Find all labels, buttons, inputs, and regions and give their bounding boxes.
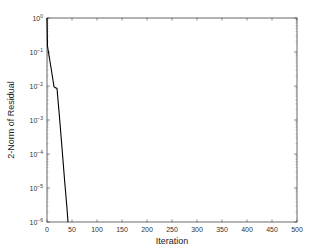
x-tick-label: 300: [191, 226, 203, 233]
y-tick-label: 100: [32, 13, 43, 22]
x-tick-label: 150: [116, 226, 128, 233]
x-tick-label: 250: [166, 226, 178, 233]
x-tick-label: 350: [216, 226, 228, 233]
y-tick-label: 10−5: [30, 183, 44, 192]
y-tick-label: 10−2: [30, 81, 44, 90]
axes-box: [47, 18, 297, 222]
chart: 050100150200250300350400450500 10010−110…: [0, 0, 317, 251]
y-tick-label: 10−1: [30, 47, 44, 56]
x-tick-label: 50: [68, 226, 76, 233]
y-tick-label: 10−4: [30, 149, 44, 158]
x-tick-label: 400: [241, 226, 253, 233]
x-tick-label: 500: [291, 226, 303, 233]
y-tick-label: 10−6: [30, 217, 44, 226]
x-tick-label: 200: [141, 226, 153, 233]
y-tick-label: 10−3: [30, 115, 44, 124]
y-axis-label: 2-Norm of Residual: [6, 81, 16, 159]
x-tick-label: 450: [266, 226, 278, 233]
x-axis-label: Iteration: [156, 236, 189, 246]
x-tick-label: 100: [91, 226, 103, 233]
x-tick-label: 0: [45, 226, 49, 233]
